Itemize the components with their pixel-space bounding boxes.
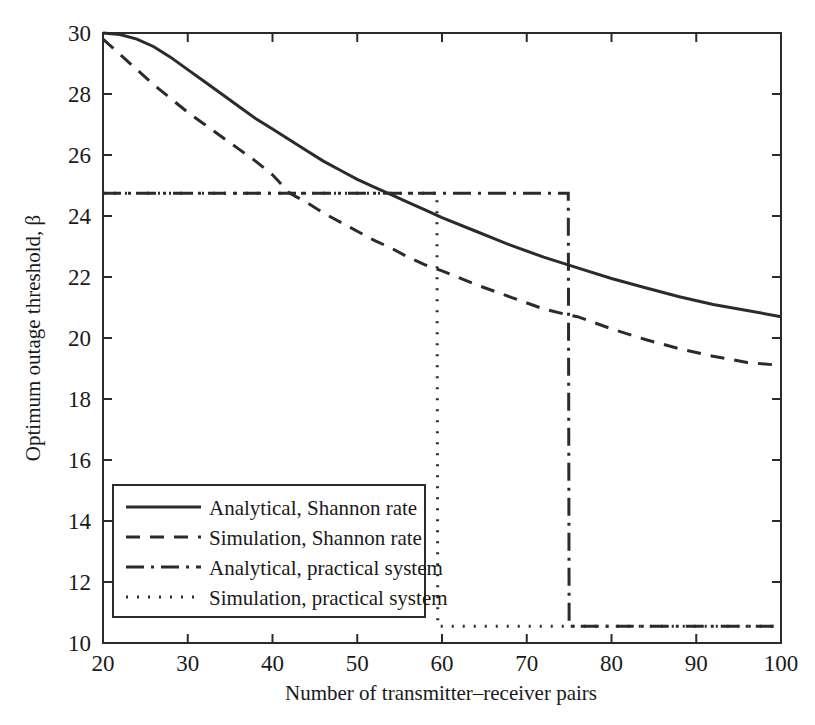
x-tick-label: 90: [685, 651, 708, 676]
y-tick-label: 20: [68, 326, 91, 351]
figure-container: 2030405060708090100 10121416182022242628…: [0, 0, 815, 725]
x-tick-label: 70: [515, 651, 538, 676]
chart-legend[interactable]: Analytical, Shannon rateSimulation, Shan…: [113, 485, 448, 617]
y-tick-label: 22: [68, 265, 91, 290]
x-tick-label: 50: [346, 651, 369, 676]
y-tick-label: 14: [68, 509, 92, 534]
legend-label-0: Analytical, Shannon rate: [209, 496, 417, 520]
x-tick-label: 60: [431, 651, 454, 676]
y-tick-label: 28: [68, 82, 91, 107]
x-axis-title: Number of transmitter–receiver pairs: [285, 681, 597, 705]
y-tick-label: 16: [68, 448, 91, 473]
y-axis-title: Optimum outage threshold, β: [21, 215, 45, 461]
x-tick-label: 40: [261, 651, 284, 676]
x-tick-label: 20: [92, 651, 115, 676]
y-tick-label: 24: [68, 204, 92, 229]
chart-canvas: 2030405060708090100 10121416182022242628…: [0, 0, 815, 725]
y-tick-label: 26: [68, 143, 91, 168]
y-tick-label: 12: [68, 570, 91, 595]
series-line-1: [103, 39, 781, 365]
x-tick-label: 100: [764, 651, 799, 676]
legend-label-2: Analytical, practical system: [209, 556, 443, 580]
x-tick-label: 80: [600, 651, 623, 676]
y-tick-label: 18: [68, 387, 91, 412]
legend-label-1: Simulation, Shannon rate: [209, 526, 422, 550]
series-line-0: [103, 33, 781, 317]
x-tick-label: 30: [176, 651, 199, 676]
y-tick-label: 10: [68, 631, 91, 656]
legend-label-3: Simulation, practical system: [209, 586, 448, 610]
y-tick-label: 30: [68, 21, 91, 46]
